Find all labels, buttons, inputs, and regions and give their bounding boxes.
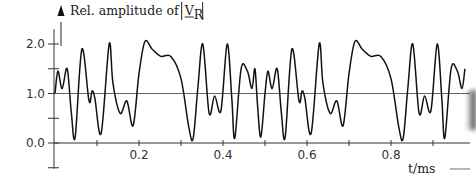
amplitude-curve bbox=[55, 40, 465, 140]
x-axis-label: t/ms bbox=[408, 161, 436, 176]
title-abs-symbol: VR bbox=[182, 2, 204, 22]
y-tick-label: 2.0 bbox=[26, 37, 45, 51]
y-axis: 0.01.02.0 bbox=[26, 29, 59, 169]
x-tick-label: 0.6 bbox=[297, 148, 316, 162]
amplitude-chart: 0.01.02.0 0.20.40.60.8 Rel. amplitude of… bbox=[0, 0, 476, 186]
y-tick-label: 0.0 bbox=[26, 136, 45, 150]
x-tick-label: 0.8 bbox=[381, 148, 400, 162]
x-axis: 0.20.40.60.8 bbox=[54, 140, 470, 162]
chart-title: Rel. amplitude of bbox=[70, 3, 180, 18]
x-tick-label: 0.2 bbox=[129, 148, 148, 162]
y-axis-arrow-icon bbox=[58, 5, 65, 46]
scan-edge-shadow bbox=[466, 90, 476, 130]
y-tick-label: 1.0 bbox=[26, 87, 45, 101]
x-tick-label: 0.4 bbox=[213, 148, 232, 162]
title-prefix: Rel. amplitude of bbox=[70, 3, 180, 18]
